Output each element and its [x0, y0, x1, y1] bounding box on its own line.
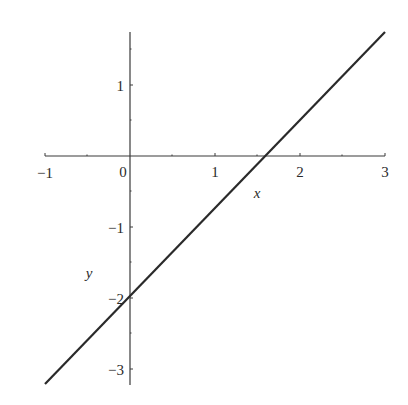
- x-tick-label: 3: [381, 164, 389, 180]
- y-axis-label: y: [84, 265, 93, 281]
- y-tick-label: 1: [117, 78, 125, 94]
- y-tick-label: −2: [108, 291, 124, 307]
- y-tick-label: −3: [108, 362, 124, 378]
- origin-label: 0: [119, 164, 127, 180]
- x-tick-label: 2: [296, 164, 304, 180]
- y-tick-label: −1: [108, 220, 124, 236]
- chart: −1 0 1 2 3 1 −1 −2 −3 x y: [0, 0, 408, 405]
- x-tick-label: 1: [211, 164, 219, 180]
- data-line: [45, 32, 385, 384]
- x-axis-label: x: [253, 185, 261, 201]
- x-tick-label: −1: [37, 165, 53, 181]
